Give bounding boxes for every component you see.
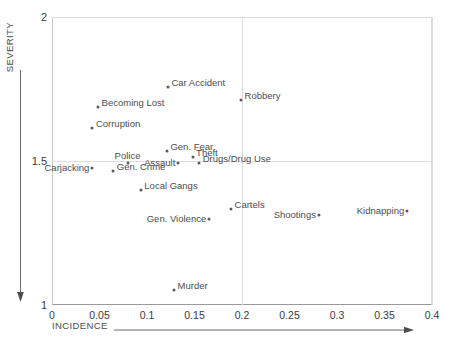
data-point-label: Gen. Violence xyxy=(147,214,207,224)
x-tick-label: 0.3 xyxy=(330,309,345,321)
x-tick-label: 0.4 xyxy=(425,309,440,321)
data-point-label: Murder xyxy=(178,281,208,291)
x-tick-label: 0 xyxy=(49,309,55,321)
data-point[interactable] xyxy=(230,208,233,211)
x-tick-label: 0.05 xyxy=(89,309,109,321)
data-point-label: Carjacking xyxy=(44,163,89,173)
data-point-label: Becoming Lost xyxy=(102,98,165,108)
data-point[interactable] xyxy=(198,162,201,165)
data-point[interactable] xyxy=(173,288,176,291)
data-point[interactable] xyxy=(91,166,94,169)
x-axis-title: INCIDENCE xyxy=(52,320,108,331)
plot-area: 11.52 00.050.10.150.20.250.30.350.4 Car … xyxy=(52,17,432,305)
data-point[interactable] xyxy=(97,105,100,108)
data-point-label: Shootings xyxy=(274,210,316,220)
data-point-label: Car Accident xyxy=(171,78,225,88)
data-point-label: Drugs/Drug Use xyxy=(203,155,271,165)
data-point[interactable] xyxy=(406,210,409,213)
y-axis-arrow-icon xyxy=(16,70,25,302)
x-axis-arrow-icon xyxy=(114,321,414,331)
data-point-label: Cartels xyxy=(235,200,265,210)
scatter-chart: SEVERITY INCIDENCE 11.52 00.050.10.150.2… xyxy=(0,0,459,343)
x-tick-label: 0.2 xyxy=(235,309,250,321)
data-point-label: Kidnapping xyxy=(357,207,405,217)
data-point[interactable] xyxy=(112,169,115,172)
data-point-label: Police xyxy=(115,151,141,161)
data-point[interactable] xyxy=(166,85,169,88)
y-tick-label: 2 xyxy=(41,11,47,23)
data-point-label: Corruption xyxy=(96,119,140,129)
data-point[interactable] xyxy=(139,188,142,191)
gridline-vertical xyxy=(432,17,433,305)
data-point[interactable] xyxy=(177,162,180,165)
data-point[interactable] xyxy=(317,213,320,216)
data-point[interactable] xyxy=(208,218,211,221)
data-point[interactable] xyxy=(91,126,94,129)
data-point[interactable] xyxy=(165,149,168,152)
x-tick-label: 0.15 xyxy=(184,309,204,321)
x-tick-label: 0.35 xyxy=(374,309,394,321)
data-point[interactable] xyxy=(240,98,243,101)
data-point-label: Robbery xyxy=(245,91,281,101)
x-tick-label: 0.25 xyxy=(279,309,299,321)
y-axis-title: SEVERITY xyxy=(4,22,15,72)
y-tick-label: 1 xyxy=(41,299,47,311)
x-tick-label: 0.1 xyxy=(140,309,155,321)
data-point-label: Gen. Crime xyxy=(117,162,166,172)
data-point-label: Local Gangs xyxy=(144,181,197,191)
data-point[interactable] xyxy=(191,156,194,159)
